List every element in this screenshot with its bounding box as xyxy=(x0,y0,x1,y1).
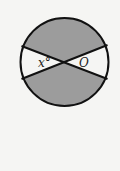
angle-label: x° xyxy=(38,56,51,70)
circle-diagram: x° O xyxy=(0,0,120,171)
center-label: O xyxy=(79,56,89,70)
